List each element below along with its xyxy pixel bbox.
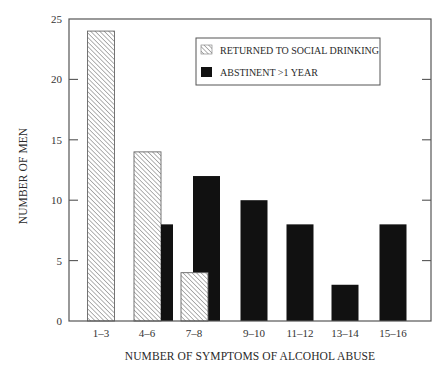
x-axis-label: NUMBER OF SYMPTOMS OF ALCOHOL ABUSE xyxy=(125,350,376,362)
x-tick-label: 4–6 xyxy=(139,327,156,339)
y-tick-label: 15 xyxy=(51,134,63,146)
x-axis-tick-labels: 1–34–67–89–1011–1213–1415–16 xyxy=(93,327,408,339)
x-tick-label: 11–12 xyxy=(286,327,313,339)
bar-social-drinking xyxy=(181,273,208,321)
y-tick-label: 0 xyxy=(57,315,63,327)
bar-abstinent xyxy=(332,285,359,321)
x-tick-label: 7–8 xyxy=(186,327,203,339)
y-tick-label: 20 xyxy=(51,73,63,85)
y-tick-label: 10 xyxy=(51,194,63,206)
bar-chart: 0510152025 1–34–67–89–1011–1213–1415–16 … xyxy=(0,0,445,378)
bar-abstinent xyxy=(161,224,173,321)
bar-social-drinking xyxy=(88,31,115,321)
legend: RETURNED TO SOCIAL DRINKING ABSTINENT >1… xyxy=(196,38,380,85)
bar-abstinent xyxy=(380,224,407,321)
y-axis-label: NUMBER OF MEN xyxy=(17,127,29,224)
legend-swatch-solid-icon xyxy=(201,67,212,77)
x-tick-label: 13–14 xyxy=(331,327,359,339)
bar-abstinent xyxy=(287,224,314,321)
x-tick-label: 9–10 xyxy=(243,327,266,339)
legend-label-social-drinking: RETURNED TO SOCIAL DRINKING xyxy=(220,45,379,56)
x-tick-label: 15–16 xyxy=(379,327,407,339)
legend-label-abstinent: ABSTINENT >1 YEAR xyxy=(220,67,318,78)
legend-swatch-hatched-icon xyxy=(201,45,212,54)
bar-social-drinking xyxy=(134,152,161,321)
y-tick-label: 5 xyxy=(57,255,63,267)
y-tick-label: 25 xyxy=(51,13,63,25)
x-tick-label: 1–3 xyxy=(93,327,110,339)
bar-abstinent xyxy=(241,200,268,321)
